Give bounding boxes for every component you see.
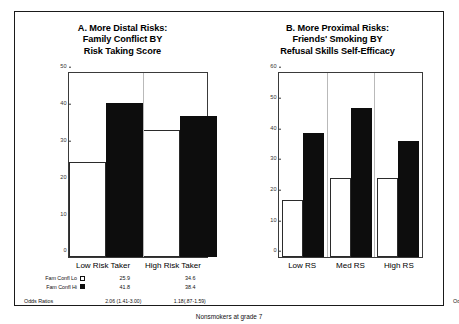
panel-a-odds-ratios-label: Odds Ratios: [23, 298, 83, 305]
panel-b-title-line-3: Refusal Skills Self-Efficacy: [230, 46, 445, 57]
panel-a-value-1-0: 41.8: [92, 284, 158, 291]
panel-a-data-table: Fam Confl Lo 25.9 34.6 Fam Confl Hi 41.8…: [23, 274, 223, 306]
bar-famconfl-lo-low-risk: [69, 162, 106, 257]
chart-panel-b: B. More Proximal Risks: Friends' Smoking…: [230, 12, 445, 305]
panel-b-category-0: Low RS: [278, 261, 326, 270]
bar-no-friends-smoke-med-rs: [330, 178, 351, 257]
bar-famconfl-hi-high-risk: [180, 116, 217, 257]
panel-b-title-line-1: B. More Proximal Risks:: [230, 23, 445, 34]
panel-b-title: B. More Proximal Risks: Friends' Smoking…: [230, 23, 445, 57]
bar-friends-smoke-low-rs: [303, 133, 324, 257]
panel-a-title-line-3: Risk Taking Score: [15, 46, 230, 57]
panel-a-category-0: Low Risk Taker: [68, 261, 138, 270]
panel-a-odds-ratio-1: 1.18(.87-1.59): [157, 298, 224, 305]
panel-a-bars: [69, 73, 207, 257]
panel-b-data-table: No Friends' Smoke 18.5 25.8 25.9 Friends…: [452, 274, 459, 306]
panel-a-ytick-30: 30: [60, 138, 69, 144]
panel-b-series-row-1: Friends' Smoke 40.3 48.7 38: [452, 283, 459, 292]
panel-a-ytick-10: 10: [60, 212, 69, 218]
open-square-swatch-icon: [80, 276, 85, 281]
panel-a-odds-ratio-0: 2.06 (1.41-3.00): [90, 298, 157, 305]
panel-a-series-0-values: 25.9 34.6: [92, 275, 223, 282]
figure-caption: Nonsmokers at grade 7: [15, 313, 443, 320]
figure-frame: A. More Distal Risks: Family Conflict BY…: [14, 11, 444, 306]
panel-b-ytick-60: 60: [270, 65, 279, 71]
panel-a-series-1-label: Fam Confl Hi: [23, 284, 80, 291]
panel-a-value-0-1: 34.6: [158, 275, 224, 282]
panel-a-ytick-40: 40: [60, 101, 69, 107]
panel-b-ytick-30: 30: [270, 157, 279, 163]
panel-a-series-0-label: Fam Confl Lo: [23, 275, 80, 282]
panel-b-ytick-50: 50: [270, 95, 279, 101]
panel-b-odds-ratios-row: Odds Ratios 2.97 (1.77-5.01) 2.73 (1.87-…: [452, 297, 459, 306]
bar-no-friends-smoke-low-rs: [282, 200, 303, 257]
panel-b-ytick-10: 10: [270, 218, 279, 224]
panel-b-category-1: Med RS: [326, 261, 374, 270]
panel-b-group-low-rs: [279, 73, 327, 257]
panel-a-category-labels: Low Risk Taker High Risk Taker: [68, 261, 208, 270]
bar-friends-smoke-high-rs: [398, 141, 419, 257]
panel-a-odds-ratios-values: 2.06 (1.41-3.00) 1.18(.87-1.59): [90, 298, 223, 305]
panel-a-series-1-values: 41.8 38.4: [92, 284, 223, 291]
panel-b-series-0-label: No Friends' Smoke: [452, 275, 459, 282]
panel-a-ytick-20: 20: [60, 175, 69, 181]
panel-b-bars: [279, 73, 422, 257]
panel-b-group-med-rs: [327, 73, 375, 257]
bar-no-friends-smoke-high-rs: [377, 178, 398, 257]
panel-a-plot-area: 0 10 20 30 40 50: [68, 72, 208, 258]
panel-a-group-high-risk-taker: [143, 73, 217, 257]
panel-a-title-line-1: A. More Distal Risks:: [15, 23, 230, 34]
panel-a-odds-ratios-row: Odds Ratios 2.06 (1.41-3.00) 1.18(.87-1.…: [23, 297, 223, 306]
bar-famconfl-hi-low-risk: [106, 103, 143, 257]
panel-a-series-row-0: Fam Confl Lo 25.9 34.6: [23, 274, 223, 283]
panel-b-series-row-0: No Friends' Smoke 18.5 25.8 25.9: [452, 274, 459, 283]
panel-b-plot-area: 0 10 20 30 40 50 60: [278, 72, 423, 258]
bar-friends-smoke-med-rs: [351, 108, 372, 257]
panel-a-ytick-50: 50: [60, 65, 69, 71]
panel-a-value-0-0: 25.9: [92, 275, 158, 282]
panel-a-value-1-1: 38.4: [158, 284, 224, 291]
panel-b-category-2: High RS: [375, 261, 423, 270]
panel-b-title-line-2: Friends' Smoking BY: [230, 34, 445, 45]
panel-b-group-high-rs: [374, 73, 422, 257]
panel-a-title: A. More Distal Risks: Family Conflict BY…: [15, 23, 230, 57]
panel-b-series-1-label: Friends' Smoke: [452, 284, 459, 291]
panel-a-category-1: High Risk Taker: [138, 261, 208, 270]
bar-famconfl-lo-high-risk: [143, 130, 180, 257]
panel-a-title-line-2: Family Conflict BY: [15, 34, 230, 45]
panel-b-ytick-20: 20: [270, 187, 279, 193]
panel-b-ytick-40: 40: [270, 126, 279, 132]
panel-b-odds-ratios-label: Odds Ratios: [452, 298, 459, 305]
chart-panel-a: A. More Distal Risks: Family Conflict BY…: [15, 12, 230, 305]
panel-a-series-row-1: Fam Confl Hi 41.8 38.4: [23, 283, 223, 292]
filled-square-swatch-icon: [80, 284, 85, 289]
panel-b-category-labels: Low RS Med RS High RS: [278, 261, 423, 270]
panel-a-group-low-risk-taker: [69, 73, 143, 257]
